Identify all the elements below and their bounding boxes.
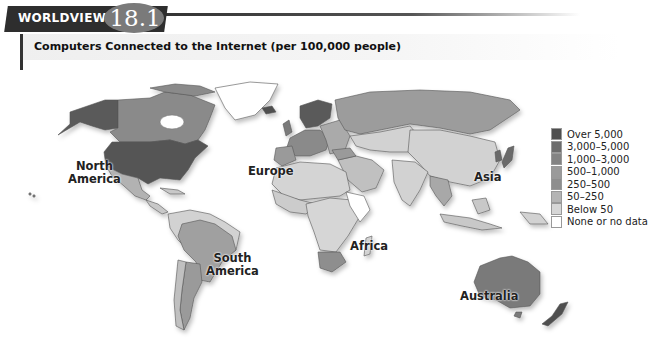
legend-swatch: [551, 178, 562, 190]
legend-item: Below 50: [551, 203, 648, 216]
legend-item: 500–1,000: [551, 166, 648, 179]
legend-swatch: [551, 203, 562, 215]
label-europe: Europe: [248, 165, 294, 178]
label-asia: Asia: [474, 171, 501, 184]
region-new-guinea: [520, 212, 548, 224]
region-central-america: [146, 200, 168, 214]
legend-item: 1,000–3,000: [551, 153, 648, 166]
legend-label: 500–1,000: [567, 166, 620, 177]
legend-label: 50–250: [567, 191, 604, 202]
region-japan: [502, 146, 514, 168]
legend-swatch: [551, 216, 562, 228]
figure-header: WORLDVIEW 18.1 Computers Connected to th…: [0, 0, 664, 62]
legend-label: 3,000–5,000: [567, 141, 629, 152]
region-korea: [495, 150, 502, 162]
region-south-africa: [318, 252, 346, 272]
label-north-america-line1: North: [76, 159, 113, 173]
legend-item: None or no data: [551, 216, 648, 229]
legend-label: 1,000–3,000: [567, 154, 629, 165]
region-russia: [335, 90, 520, 134]
region-iberia: [274, 146, 296, 166]
label-north-america-line2: America: [68, 172, 121, 186]
label-south-america: South America: [206, 252, 259, 278]
legend-swatch: [551, 191, 562, 203]
legend-swatch: [551, 128, 562, 140]
legend-item: 50–250: [551, 191, 648, 204]
legend-label: Below 50: [567, 204, 613, 215]
legend-label: 250–500: [567, 179, 610, 190]
region-indonesia: [440, 214, 502, 230]
label-australia: Australia: [460, 290, 519, 303]
region-greenland: [215, 82, 278, 120]
region-caribbean: [160, 188, 185, 194]
region-new-zealand: [542, 302, 568, 326]
legend-item: Over 5,000: [551, 128, 648, 141]
legend-item: 3,000–5,000: [551, 141, 648, 154]
label-south-america-line2: America: [206, 264, 259, 278]
legend-swatch: [551, 166, 562, 178]
region-uk: [283, 120, 292, 136]
label-south-america-line1: South: [213, 251, 251, 265]
region-borneo: [472, 198, 490, 214]
legend-swatch: [551, 153, 562, 165]
legend-item: 250–500: [551, 178, 648, 191]
label-north-america: North America: [68, 160, 121, 186]
label-africa: Africa: [350, 240, 388, 253]
region-tasmania: [514, 312, 522, 318]
legend-label: Over 5,000: [567, 129, 623, 140]
legend-swatch: [551, 141, 562, 153]
map-subtitle: Computers Connected to the Internet (per…: [34, 40, 401, 53]
map-legend: Over 5,000 3,000–5,000 1,000–3,000 500–1…: [551, 128, 648, 228]
legend-label: None or no data: [567, 216, 648, 227]
figure-number: 18.1: [108, 3, 162, 33]
worldview-label: WORLDVIEW: [18, 11, 106, 25]
region-iceland: [262, 106, 276, 114]
region-alaska: [58, 100, 118, 135]
header-rule: [160, 13, 580, 16]
